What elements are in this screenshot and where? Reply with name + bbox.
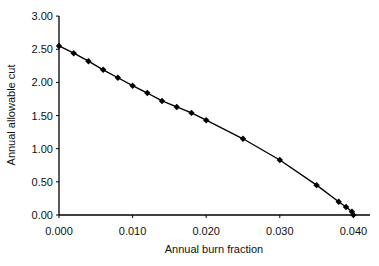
diamond-marker-icon — [71, 50, 77, 56]
data-markers — [56, 43, 357, 218]
y-tick-label: 2.50 — [32, 43, 53, 55]
y-tick-label: 0.50 — [32, 176, 53, 188]
x-tick-label: 0.020 — [192, 225, 220, 237]
diamond-marker-icon — [159, 98, 165, 104]
y-axis-ticks: 0.000.501.001.502.002.503.00 — [32, 10, 59, 221]
y-tick-label: 1.00 — [32, 143, 53, 155]
x-tick-label: 0.040 — [340, 225, 368, 237]
diamond-marker-icon — [203, 117, 209, 123]
x-tick-label: 0.010 — [119, 225, 147, 237]
line-chart: 0.000.501.001.502.002.503.00 0.0000.0100… — [0, 0, 379, 266]
diamond-marker-icon — [144, 90, 150, 96]
x-tick-label: 0.000 — [45, 225, 73, 237]
x-axis-ticks: 0.0000.0100.0200.0300.040 — [45, 215, 367, 237]
diamond-marker-icon — [85, 58, 91, 64]
diamond-marker-icon — [115, 75, 121, 81]
diamond-marker-icon — [129, 83, 135, 89]
diamond-marker-icon — [188, 110, 194, 116]
diamond-marker-icon — [100, 67, 106, 73]
diamond-marker-icon — [240, 136, 246, 142]
diamond-marker-icon — [56, 43, 62, 49]
y-tick-label: 2.00 — [32, 76, 53, 88]
diamond-marker-icon — [174, 104, 180, 110]
x-axis-title: Annual burn fraction — [165, 243, 263, 255]
x-tick-label: 0.030 — [266, 225, 294, 237]
y-tick-label: 3.00 — [32, 10, 53, 22]
y-tick-label: 1.50 — [32, 110, 53, 122]
y-tick-label: 0.00 — [32, 209, 53, 221]
y-axis-title: Annual allowable cut — [5, 65, 17, 166]
